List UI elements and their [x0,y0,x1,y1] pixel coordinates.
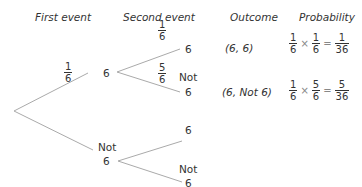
node-first-not-prefix: Not [98,141,116,153]
probability-row-2: 1 6 × 5 6 = 5 36 [289,79,349,102]
outcome-6-6: (6, 6) [225,42,253,54]
prob1-result: 1 36 [335,32,350,55]
times-sign: × [300,85,308,96]
branch-lower-lower [118,161,182,182]
prob2-factor-b: 5 6 [312,79,320,102]
header-first-event: First event [35,11,91,23]
node-first-not-6: 6 [103,155,110,167]
prob1-factor-b: 1 6 [312,32,320,55]
branch-lower-upper [118,141,182,161]
prob-upper-upper: 1 6 [158,19,166,42]
branch-upper-lower [117,72,180,92]
prob-root-upper: 1 6 [64,61,72,84]
outcome-6-not-6: (6, Not 6) [222,86,272,98]
branch-root-upper [14,73,88,111]
node-second-upper-not-prefix: Not [179,71,197,83]
branch-upper-upper [117,49,180,72]
prob2-result: 5 36 [335,79,350,102]
header-probability: Probability [299,11,355,23]
times-sign: × [300,38,308,49]
node-first-6: 6 [103,67,110,79]
probability-row-1: 1 6 × 1 6 = 1 36 [289,32,349,55]
node-second-lower-6: 6 [185,124,192,136]
node-second-lower-not-prefix: Not [179,163,197,175]
prob-upper-lower: 5 6 [158,62,166,85]
branch-root-lower [14,111,93,150]
prob1-factor-a: 1 6 [289,32,297,55]
equals-sign: = [323,85,331,96]
node-second-lower-not-6: 6 [185,177,192,187]
node-second-upper-6: 6 [185,43,192,55]
equals-sign: = [323,38,331,49]
node-second-upper-not-6: 6 [185,86,192,98]
prob2-factor-a: 1 6 [289,79,297,102]
header-outcome: Outcome [230,11,278,23]
